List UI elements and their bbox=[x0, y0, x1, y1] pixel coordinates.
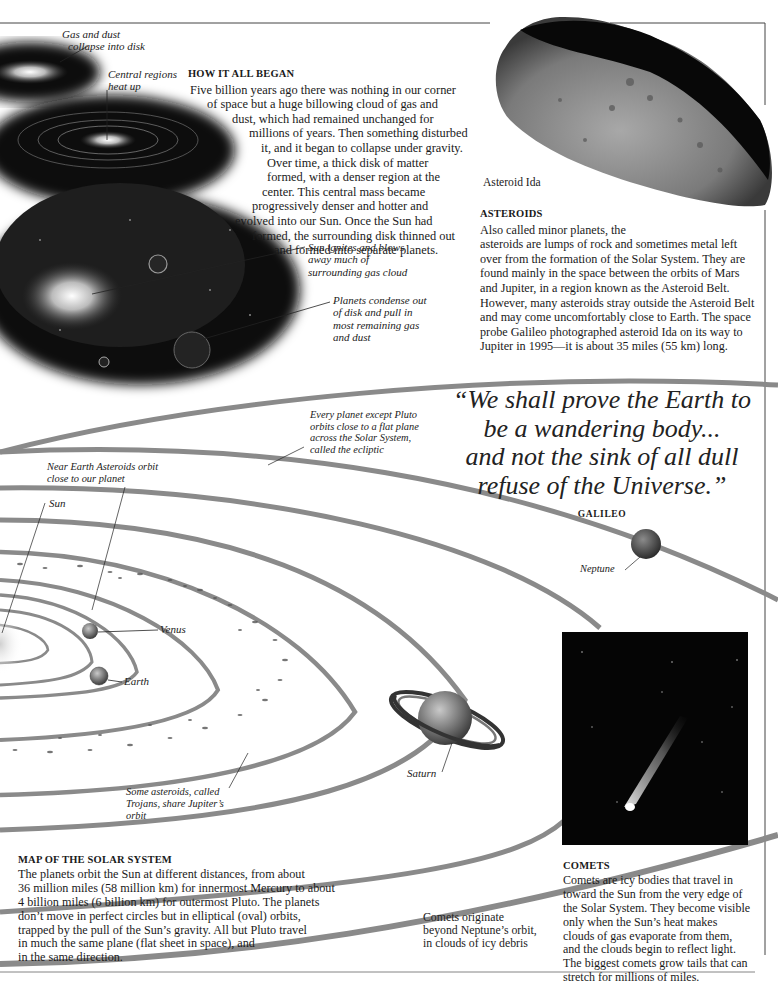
venus-planet bbox=[82, 623, 98, 639]
caption-comets-origin: Comets originate beyond Neptune’s orbit,… bbox=[423, 911, 537, 951]
label-saturn: Saturn bbox=[407, 767, 436, 779]
caption-planets-condense: Planets condense out of disk and pull in… bbox=[333, 294, 426, 344]
asteroid-ida-caption: Asteroid Ida bbox=[483, 176, 541, 189]
galileo-quote: “We shall prove the Earth to be a wander… bbox=[452, 386, 752, 519]
comets-section: COMETS Comets are icy bodies that travel… bbox=[563, 859, 750, 984]
quote-author: GALILEO bbox=[452, 509, 752, 519]
caption-near-earth: Near Earth Asteroids orbit close to our … bbox=[47, 461, 158, 484]
caption-central-regions: Central regions heat up bbox=[108, 68, 177, 93]
caption-sun-ignites: Sun ignites and blows away much of surro… bbox=[308, 241, 407, 278]
map-heading: MAP OF THE SOLAR SYSTEM bbox=[18, 853, 335, 867]
caption-gas-dust: Gas and dust collapse into disk bbox=[62, 28, 145, 53]
asteroid-belt bbox=[13, 563, 289, 753]
label-neptune: Neptune bbox=[580, 563, 615, 575]
label-earth: Earth bbox=[124, 675, 149, 687]
earth-planet bbox=[90, 667, 108, 685]
map-section: MAP OF THE SOLAR SYSTEM The planets orbi… bbox=[18, 853, 335, 965]
label-venus: Venus bbox=[160, 623, 186, 635]
neptune-planet bbox=[631, 529, 661, 559]
formation-section: HOW IT ALL BEGAN Five billion years ago … bbox=[188, 67, 468, 258]
caption-ecliptic: Every planet except Pluto orbits close t… bbox=[310, 409, 419, 455]
formation-heading: HOW IT ALL BEGAN bbox=[188, 67, 468, 82]
comet-photo bbox=[562, 632, 748, 845]
asteroids-heading: ASTEROIDS bbox=[480, 207, 754, 222]
caption-trojans: Some asteroids, called Trojans, share Ju… bbox=[126, 786, 224, 821]
sun-body bbox=[0, 614, 22, 674]
comets-heading: COMETS bbox=[563, 859, 750, 873]
asteroids-section: ASTEROIDS Also called minor planets, the… bbox=[480, 207, 754, 354]
label-sun: Sun bbox=[49, 497, 66, 509]
saturn-planet bbox=[385, 681, 510, 759]
